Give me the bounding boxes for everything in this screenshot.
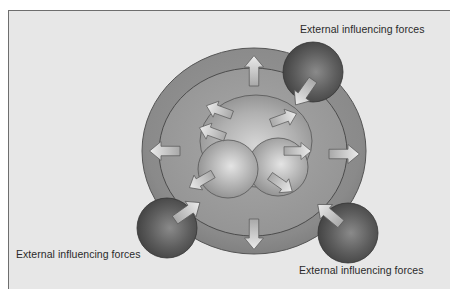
core-left-sphere	[198, 140, 258, 198]
label-external-forces-bottom-left: External influencing forces	[16, 248, 141, 260]
influence-diagram	[0, 0, 450, 289]
label-external-forces-top-right: External influencing forces	[300, 23, 425, 35]
label-external-forces-bottom-right: External influencing forces	[299, 264, 424, 276]
external-force-ball-top-right	[283, 42, 343, 102]
